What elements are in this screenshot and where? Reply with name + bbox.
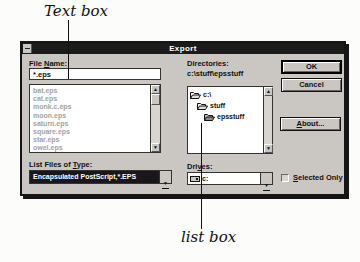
dropdown-arrow-icon: ▼ — [263, 180, 270, 191]
control-menu-dash-icon — [25, 48, 30, 49]
file-list-item[interactable]: monk.c.eps — [33, 103, 150, 111]
textbox-callout-line — [68, 20, 69, 79]
dropdown-arrow-icon: ▼ — [162, 178, 169, 189]
directory-item[interactable]: stuff — [188, 100, 263, 111]
file-list-item[interactable]: owel.eps — [33, 144, 150, 152]
textbox-callout-label: Text box — [44, 2, 108, 20]
file-type-selected-value: Encapsulated PostScript,*.EPS — [30, 171, 159, 183]
scroll-up-icon[interactable]: ▲ — [264, 87, 273, 96]
file-name-label: File Name: — [29, 59, 67, 68]
file-list-item[interactable]: saturn.eps — [33, 120, 150, 128]
file-list-scrollbar[interactable]: ▲ ▼ — [150, 85, 160, 152]
cancel-button[interactable]: Cancel — [281, 78, 342, 92]
directories-scrollbar[interactable]: ▲ ▼ — [263, 87, 272, 153]
selected-only-label: Selected Only — [293, 173, 343, 182]
open-folder-icon — [190, 91, 201, 99]
file-list-items: bat.eps cat.eps monk.c.eps moon.eps satu… — [30, 85, 150, 152]
current-directory-path: c:\stuff\epsstuff — [187, 69, 243, 78]
file-name-input[interactable] — [29, 68, 161, 80]
file-type-dropdown-button[interactable]: ▼ — [159, 171, 171, 183]
directories-list-box[interactable]: c:\ stuff epsstuff ▲ ▼ — [187, 86, 273, 154]
about-button[interactable]: About... — [280, 117, 341, 131]
drive-selected-value: c: — [188, 173, 260, 184]
directory-tree: c:\ stuff epsstuff — [188, 87, 263, 153]
directory-name: stuff — [210, 102, 225, 109]
open-folder-icon — [197, 102, 208, 110]
scroll-up-icon[interactable]: ▲ — [151, 85, 160, 94]
directory-name: epsstuff — [217, 113, 244, 120]
directories-label: Directories: — [187, 59, 229, 68]
drives-label: Drives: — [187, 162, 212, 171]
drives-dropdown-button[interactable]: ▼ — [260, 173, 272, 184]
selected-only-option: Selected Only — [281, 173, 343, 182]
file-list-item[interactable]: moon.eps — [33, 112, 150, 120]
directory-item[interactable]: c:\ — [188, 89, 263, 100]
scroll-down-icon[interactable]: ▼ — [264, 144, 273, 153]
listbox-callout-line — [201, 123, 202, 229]
listbox-callout-label: list box — [181, 228, 236, 246]
ok-button[interactable]: OK — [281, 60, 342, 74]
drive-icon — [190, 176, 200, 182]
dialog-title: Export — [169, 44, 197, 53]
directory-item-current[interactable]: epsstuff — [188, 111, 263, 122]
selected-only-checkbox[interactable] — [281, 174, 289, 182]
open-folder-current-icon — [204, 113, 215, 121]
scrollbar-thumb[interactable] — [151, 94, 160, 105]
file-list-item[interactable]: bat.eps — [33, 87, 150, 95]
drives-dropdown[interactable]: c: ▼ — [187, 172, 273, 185]
titlebar[interactable]: Export — [22, 43, 344, 54]
file-list-item[interactable]: square.eps — [33, 128, 150, 136]
file-list-item[interactable]: star.eps — [33, 136, 150, 144]
control-menu-icon[interactable] — [23, 44, 32, 53]
file-type-dropdown[interactable]: Encapsulated PostScript,*.EPS ▼ — [29, 170, 172, 184]
list-files-of-type-label: List Files of Type: — [29, 160, 92, 169]
scroll-down-icon[interactable]: ▼ — [151, 143, 160, 152]
file-list-item[interactable]: cat.eps — [33, 95, 150, 103]
file-list-box[interactable]: bat.eps cat.eps monk.c.eps moon.eps satu… — [29, 84, 161, 153]
directory-name: c:\ — [203, 91, 211, 98]
